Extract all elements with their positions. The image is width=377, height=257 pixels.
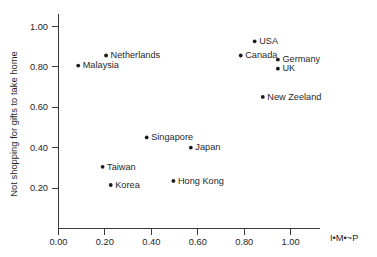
data-point-label: Singapore <box>151 132 193 142</box>
data-point-label: UK <box>282 63 296 73</box>
y-tick-label: 0.60 <box>30 102 48 112</box>
data-point-marker <box>101 165 105 169</box>
x-tick-label: 0.00 <box>49 237 67 247</box>
data-point-label: Netherlands <box>111 50 161 60</box>
x-tick-label: 1.00 <box>282 237 300 247</box>
data-point-marker <box>253 39 257 43</box>
x-axis-label-text: I•M•~P <box>330 233 358 243</box>
data-point: Netherlands <box>104 50 160 60</box>
x-tick-label: 0.40 <box>142 237 160 247</box>
y-axis-ticks: 0.200.400.600.801.00 <box>30 22 59 194</box>
data-point: Canada <box>239 50 278 60</box>
y-axis-label: Not shopping for gifts to take home <box>8 51 19 196</box>
data-point-marker <box>104 54 108 58</box>
y-tick-label: 1.00 <box>30 22 48 32</box>
y-tick-label: 0.20 <box>30 183 48 193</box>
data-point-label: Japan <box>195 142 220 152</box>
data-point-series: MalaysiaNetherlandsUSACanadaGermanyUKNew… <box>76 36 321 190</box>
data-point: Japan <box>189 142 220 152</box>
y-tick-label: 0.80 <box>30 62 48 72</box>
x-tick-label: 0.20 <box>96 237 114 247</box>
data-point: Taiwan <box>101 162 136 172</box>
data-point-marker <box>172 179 176 183</box>
data-point-marker <box>261 95 265 99</box>
data-point: Singapore <box>145 132 193 142</box>
data-point-label: Hong Kong <box>178 176 224 186</box>
data-point-marker <box>276 58 280 62</box>
scatter-chart-figure: Not shopping for gifts to take home 0.20… <box>0 0 377 257</box>
y-axis-label-text: Not shopping for gifts to take home <box>8 51 19 196</box>
data-point-label: Malaysia <box>83 60 120 70</box>
data-point-label: New Zeeland <box>267 92 321 102</box>
data-point: USA <box>253 36 279 46</box>
data-point: Hong Kong <box>172 176 224 186</box>
data-point-label: USA <box>259 36 279 46</box>
data-point-label: Canada <box>245 50 278 60</box>
data-point-marker <box>145 136 149 140</box>
data-point-marker <box>76 64 80 68</box>
data-point-label: Korea <box>115 180 140 190</box>
y-tick-label: 0.40 <box>30 143 48 153</box>
data-point-marker <box>276 67 280 71</box>
x-tick-label: 0.80 <box>235 237 253 247</box>
data-point-marker <box>109 183 113 187</box>
data-point: Malaysia <box>76 60 120 70</box>
x-axis-ticks: 0.000.200.400.600.801.00 <box>49 229 299 248</box>
data-point: Korea <box>109 180 141 190</box>
data-point: New Zeeland <box>261 92 322 102</box>
data-point-label: Taiwan <box>107 162 136 172</box>
chart-canvas: Not shopping for gifts to take home 0.20… <box>0 0 377 257</box>
data-point-marker <box>189 146 193 150</box>
data-point-marker <box>239 54 243 58</box>
data-point: UK <box>276 63 296 73</box>
x-tick-label: 0.60 <box>189 237 207 247</box>
